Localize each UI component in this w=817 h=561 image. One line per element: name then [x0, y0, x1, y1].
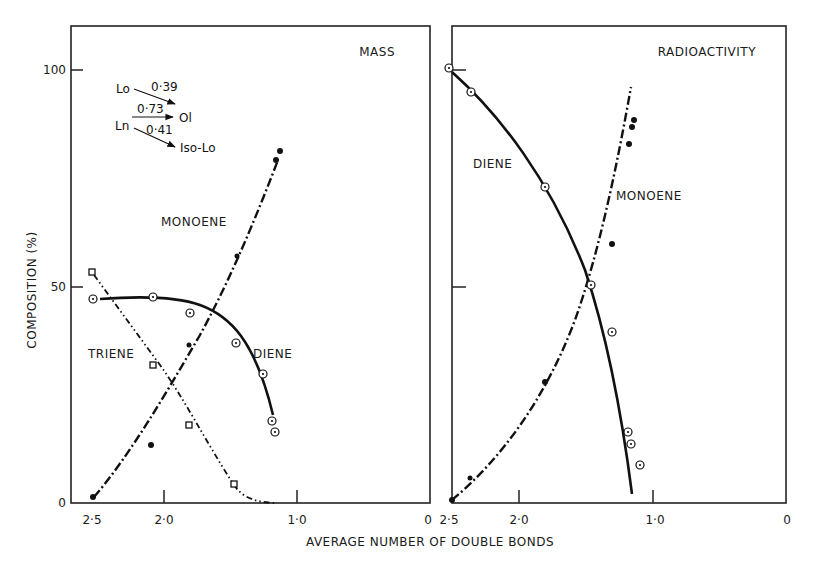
mass-frame: [71, 26, 430, 503]
mass-monoene-curve: [94, 160, 278, 497]
y-axis-label: COMPOSITION (%): [25, 231, 39, 348]
reaction-scheme: Lo 0·39 0·73 Ol Ln 0·41 Iso-Lo: [115, 80, 216, 155]
radio-monoene-points: [449, 117, 637, 503]
y-tick-50: 50: [51, 280, 66, 294]
x-tick-1-0: 1·0: [287, 513, 306, 527]
radio-diene-points: [445, 64, 644, 469]
mass-monoene-points: [90, 148, 283, 500]
y-tick-100: 100: [43, 63, 66, 77]
mass-panel-title: MASS: [359, 45, 395, 59]
figure: 100 50 0 2·5 2·0 1·0 0 MASS Lo 0·39 0·73…: [0, 0, 817, 561]
scheme-k-lo-ol: 0·39: [151, 80, 178, 94]
radio-monoene-label: MONOENE: [616, 189, 682, 203]
radioactivity-panel: 2·5 2·0 1·0 0 RADIOACTIVITY DIENE MONOEN…: [439, 26, 790, 527]
scheme-ln: Ln: [115, 119, 129, 133]
mass-triene-curve: [94, 275, 275, 503]
x-tick-2-5: 2·5: [82, 513, 101, 527]
radio-monoene-curve: [452, 87, 631, 500]
mass-panel: 100 50 0 2·5 2·0 1·0 0 MASS Lo 0·39 0·73…: [43, 26, 432, 527]
scheme-lo: Lo: [116, 82, 130, 96]
x-tick-2-0-right: 2·0: [509, 513, 528, 527]
scheme-ol: Ol: [179, 111, 192, 125]
x-tick-2-5-right: 2·5: [439, 513, 458, 527]
mass-diene-label: DIENE: [253, 347, 292, 361]
x-axis-label: AVERAGE NUMBER OF DOUBLE BONDS: [306, 535, 554, 549]
radio-diene-label: DIENE: [473, 157, 512, 171]
x-tick-0: 0: [424, 513, 432, 527]
radioactivity-frame: [452, 26, 786, 503]
mass-triene-label: TRIENE: [87, 347, 134, 361]
x-tick-0-right: 0: [783, 513, 791, 527]
radio-diene-curve: [452, 72, 632, 494]
scheme-iso-lo: Iso-Lo: [180, 141, 216, 155]
mass-monoene-label: MONOENE: [161, 215, 227, 229]
y-tick-0: 0: [58, 496, 66, 510]
radioactivity-panel-title: RADIOACTIVITY: [658, 45, 756, 59]
x-tick-2-0: 2·0: [154, 513, 173, 527]
x-tick-1-0-right: 1·0: [645, 513, 664, 527]
scheme-k-ln-ol: 0·73: [137, 102, 164, 116]
